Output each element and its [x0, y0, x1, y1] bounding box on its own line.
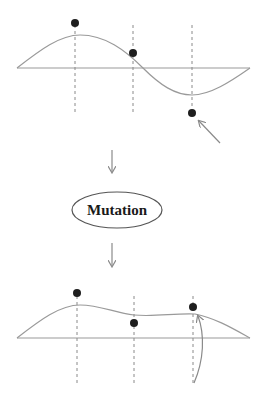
after-point-2 — [130, 319, 138, 327]
before-plot — [17, 19, 250, 143]
before-point-3-mutated — [188, 109, 196, 117]
before-point-1 — [71, 19, 79, 27]
mutation-label: Mutation — [87, 202, 148, 218]
after-plot — [17, 289, 250, 385]
after-point-1 — [73, 289, 81, 297]
after-point-3-mutated — [189, 303, 197, 311]
mutation-node: Mutation — [72, 192, 162, 228]
mutation-diagram: Mutation — [0, 0, 272, 398]
mutation-pointer-arrow-icon — [199, 121, 220, 143]
mutated-point-curved-arrow-icon — [194, 316, 203, 383]
before-point-2 — [129, 49, 137, 57]
